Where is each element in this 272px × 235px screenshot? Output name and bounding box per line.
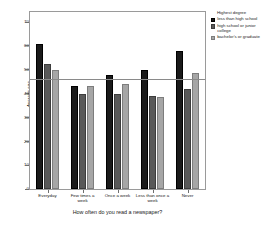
reference-line bbox=[30, 79, 205, 80]
x-axis-tick-label: Everyday bbox=[31, 193, 65, 198]
legend-item-less-than-high-school[interactable]: less than high school bbox=[211, 17, 271, 22]
bar-chart: 010203040506070 Average age EverydayFew … bbox=[0, 0, 272, 235]
legend-item-label: bachelor's or graduate bbox=[217, 35, 260, 40]
plot-area bbox=[30, 12, 205, 189]
bar-group bbox=[170, 12, 205, 189]
bar[interactable] bbox=[122, 84, 129, 189]
bar[interactable] bbox=[87, 86, 94, 189]
legend-item-high-school-or-junior-college[interactable]: high school or junior college bbox=[211, 24, 271, 34]
bar[interactable] bbox=[114, 94, 121, 189]
bar[interactable] bbox=[106, 75, 113, 189]
bar[interactable] bbox=[176, 51, 183, 189]
bar-group bbox=[135, 12, 170, 189]
bar[interactable] bbox=[192, 73, 199, 189]
bar[interactable] bbox=[149, 96, 156, 189]
legend-item-label: less than high school bbox=[217, 17, 257, 22]
legend: Highest degree less than high school hig… bbox=[211, 10, 271, 42]
x-axis-tick-label: Never bbox=[171, 193, 205, 198]
bar[interactable] bbox=[71, 86, 78, 189]
bar[interactable] bbox=[44, 64, 51, 189]
bar[interactable] bbox=[141, 70, 148, 189]
legend-swatch-icon bbox=[211, 24, 215, 28]
legend-swatch-icon bbox=[211, 36, 215, 40]
bar[interactable] bbox=[36, 44, 43, 189]
bar-group bbox=[30, 12, 65, 189]
x-axis-tick-label: Less than once a week bbox=[136, 193, 170, 203]
legend-item-label: high school or junior college bbox=[217, 24, 267, 34]
y-axis: 010203040506070 bbox=[0, 0, 29, 235]
x-axis-tick-label: Once a week bbox=[101, 193, 135, 198]
x-axis-title: How often do you read a newspaper? bbox=[29, 209, 206, 215]
x-axis-tick-label: Few times a week bbox=[66, 193, 100, 203]
bar-group bbox=[100, 12, 135, 189]
legend-item-bachelors-or-graduate[interactable]: bachelor's or graduate bbox=[211, 35, 271, 40]
bar[interactable] bbox=[157, 97, 164, 189]
legend-title: Highest degree bbox=[217, 10, 271, 15]
bar[interactable] bbox=[52, 70, 59, 189]
legend-swatch-icon bbox=[211, 18, 215, 22]
bar[interactable] bbox=[184, 89, 191, 189]
bar[interactable] bbox=[79, 94, 86, 189]
bar-group bbox=[65, 12, 100, 189]
